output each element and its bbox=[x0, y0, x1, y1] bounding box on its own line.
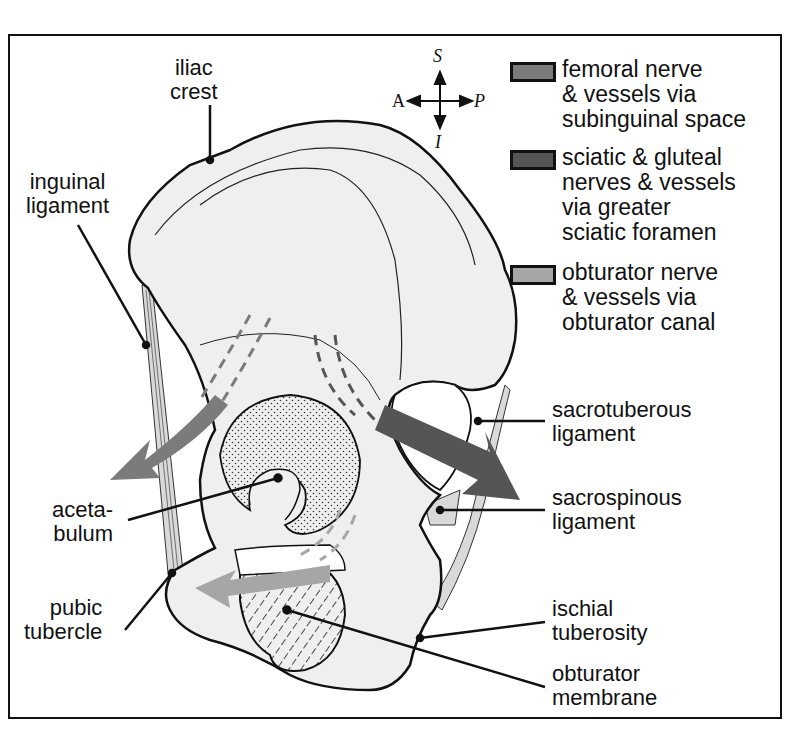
compass-inferior: I bbox=[435, 132, 441, 153]
legend-swatch-femoral bbox=[510, 62, 556, 82]
label-acetabulum: aceta- bulum bbox=[52, 498, 113, 546]
label-iliac-crest: iliac crest bbox=[170, 56, 218, 104]
label-inguinal-ligament: inguinal ligament bbox=[26, 170, 109, 218]
legend-swatch-obturator bbox=[510, 265, 556, 285]
label-sacrotuberous-ligament: sacrotuberous ligament bbox=[552, 398, 691, 446]
label-pubic-tubercle: pubic tubercle bbox=[24, 596, 102, 644]
label-sacrospinous-ligament: sacrospinous ligament bbox=[552, 486, 682, 534]
label-ischial-tuberosity: ischial tuberosity bbox=[552, 597, 647, 645]
orientation-compass bbox=[408, 72, 472, 128]
compass-posterior: P bbox=[474, 91, 485, 112]
label-obturator-membrane: obturator membrane bbox=[552, 662, 657, 710]
legend-swatch-sciatic bbox=[510, 150, 556, 170]
legend-label-obturator: obturator nerve & vessels via obturator … bbox=[562, 260, 718, 335]
legend-label-femoral: femoral nerve & vessels via subinguinal … bbox=[562, 57, 746, 132]
legend-label-sciatic: sciatic & gluteal nerves & vessels via g… bbox=[562, 145, 736, 245]
compass-anterior: A bbox=[392, 91, 405, 112]
compass-superior: S bbox=[433, 46, 442, 67]
